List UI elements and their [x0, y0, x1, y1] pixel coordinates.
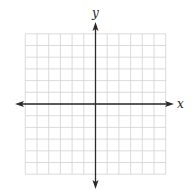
y-axis-label: y: [91, 6, 99, 20]
axes: [15, 22, 174, 189]
x-axis-label: x: [177, 97, 184, 111]
coordinate-plane: x y: [0, 0, 194, 193]
